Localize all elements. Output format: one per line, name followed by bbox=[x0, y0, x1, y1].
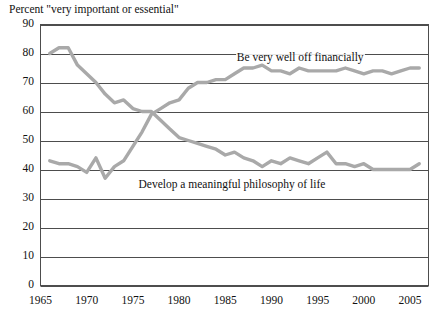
y-tick-label: 90 bbox=[4, 17, 34, 29]
x-tick-label: 1990 bbox=[251, 294, 291, 306]
y-tick-label: 60 bbox=[4, 104, 34, 116]
x-tick-label: 1980 bbox=[159, 294, 199, 306]
x-tick-label: 1985 bbox=[205, 294, 245, 306]
chart-figure: Percent "very important or essential" 01… bbox=[0, 0, 443, 328]
x-tick-label: 2000 bbox=[344, 294, 384, 306]
line-financial bbox=[50, 65, 420, 178]
chart-svg bbox=[0, 0, 443, 328]
y-tick-label: 40 bbox=[4, 162, 34, 174]
y-tick-label: 70 bbox=[4, 75, 34, 87]
x-tick-label: 1970 bbox=[67, 294, 107, 306]
series-label-financial: Be very well off financially bbox=[236, 51, 365, 63]
line-philosophy bbox=[50, 48, 420, 170]
plot-border bbox=[41, 25, 429, 286]
series-label-philosophy: Develop a meaningful philosophy of life bbox=[138, 178, 327, 190]
x-tick-label: 1995 bbox=[298, 294, 338, 306]
y-tick-label: 30 bbox=[4, 191, 34, 203]
plot-area: 0102030405060708090 19651970197519801985… bbox=[0, 0, 443, 328]
x-tick-label: 1965 bbox=[21, 294, 61, 306]
x-tick-label: 1975 bbox=[113, 294, 153, 306]
y-tick-label: 20 bbox=[4, 220, 34, 232]
y-tick-label: 80 bbox=[4, 46, 34, 58]
y-tick-label: 0 bbox=[4, 278, 34, 290]
y-tick-label: 10 bbox=[4, 249, 34, 261]
x-tick-label: 2005 bbox=[390, 294, 430, 306]
y-tick-label: 50 bbox=[4, 133, 34, 145]
gridlines bbox=[41, 26, 429, 287]
